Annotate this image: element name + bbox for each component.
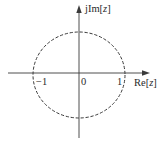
tick-origin: 0 [81,77,86,88]
x-axis-label-prefix: Re[ [134,77,149,88]
real-axis-arrow-icon [142,70,150,75]
z-plane-graphic [0,0,164,144]
x-axis-label-suffix: ] [153,77,157,88]
tick-neg-one: −1 [36,77,47,88]
tick-pos-one: 1 [117,77,122,88]
y-axis-label-suffix: ] [107,3,111,14]
x-axis-label: Re[z] [134,78,157,89]
y-axis-label: jIm[z] [85,4,111,15]
z-plane-diagram: jIm[z] Re[z] −1 0 1 [0,0,164,144]
y-axis-label-prefix: jIm[ [85,3,103,14]
imaginary-axis-arrow-icon [76,5,81,13]
